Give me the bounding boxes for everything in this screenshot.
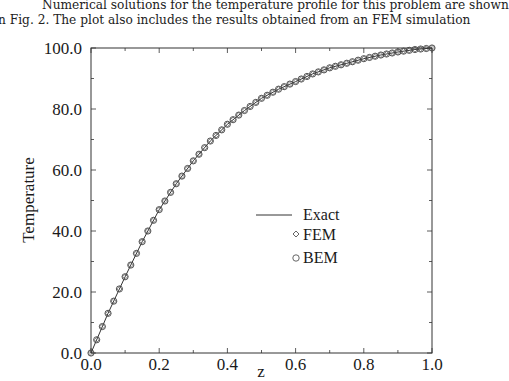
legend-fem-label: FEM: [303, 226, 336, 243]
legend-exact-label: Exact: [303, 206, 340, 223]
y-tick-label: 100.0: [44, 39, 82, 58]
x-axis-label: z: [257, 362, 265, 381]
axis-ticks: [91, 48, 432, 353]
y-tick-label: 60.0: [52, 161, 82, 180]
legend-fem-diamond-icon: [293, 231, 299, 237]
y-tick-label: 40.0: [52, 222, 82, 241]
y-tick-label: 0.0: [61, 344, 82, 363]
legend-bem-label: BEM: [303, 249, 338, 266]
x-tick-label: 0.2: [149, 355, 170, 374]
series-exact-line: [91, 48, 432, 353]
legend-bem-circle-icon: [293, 255, 299, 261]
y-tick-label: 80.0: [52, 100, 82, 119]
y-tick-label: 20.0: [52, 283, 82, 302]
x-tick-label: 1.0: [421, 355, 442, 374]
plot-frame: [91, 48, 432, 353]
y-tick-labels: 0.020.040.060.080.0100.0: [44, 39, 82, 363]
legend: Exact FEM BEM: [256, 206, 340, 266]
x-tick-label: 0.8: [353, 355, 374, 374]
y-axis-label: Temperature: [19, 157, 38, 243]
x-tick-label: 0.0: [80, 355, 101, 374]
x-tick-label: 0.4: [217, 355, 239, 374]
x-tick-label: 0.6: [285, 355, 306, 374]
data-series: [88, 45, 435, 356]
